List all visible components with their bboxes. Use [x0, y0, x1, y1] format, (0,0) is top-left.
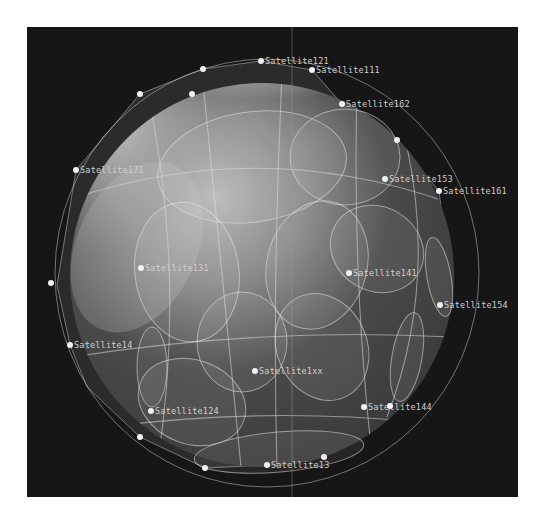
- satellite-label: Satellite124: [155, 406, 219, 416]
- satellite-dot-icon[interactable]: [67, 342, 73, 348]
- satellite-marker[interactable]: Satellite154: [437, 300, 508, 310]
- satellite-label: Satellite141: [353, 268, 417, 278]
- satellite-label: Satellite13: [271, 460, 330, 470]
- satellite-marker[interactable]: Satellite13: [264, 460, 330, 470]
- satellite-dot-icon[interactable]: [321, 454, 327, 460]
- satellite-label: Satellite153: [389, 174, 453, 184]
- satellite-dot-icon[interactable]: [309, 67, 315, 73]
- satellite-marker[interactable]: Satellite153: [382, 174, 453, 184]
- satellite-marker[interactable]: [321, 454, 327, 460]
- satellite-label: Satellite14: [74, 340, 133, 350]
- satellite-dot-icon[interactable]: [264, 462, 270, 468]
- satellite-marker[interactable]: [394, 137, 400, 143]
- satellite-marker[interactable]: [387, 403, 393, 409]
- satellite-marker[interactable]: [48, 280, 54, 286]
- satellite-label: Satellite131: [145, 263, 209, 273]
- satellite-label: Satellite111: [316, 65, 380, 75]
- satellite-marker[interactable]: [200, 66, 206, 72]
- coverage-footprint: [290, 109, 400, 205]
- satellite-dot-icon[interactable]: [387, 403, 393, 409]
- satellite-dot-icon[interactable]: [202, 465, 208, 471]
- satellite-marker[interactable]: [137, 434, 143, 440]
- satellite-dot-icon[interactable]: [138, 265, 144, 271]
- satellite-dot-icon[interactable]: [361, 404, 367, 410]
- satellite-dot-icon[interactable]: [200, 66, 206, 72]
- satellite-label: Satellite162: [346, 99, 410, 109]
- satellite-label: Satellite1xx: [259, 366, 323, 376]
- satellite-marker[interactable]: Satellite111: [309, 65, 380, 75]
- satellite-marker[interactable]: Satellite161: [436, 186, 507, 196]
- satellite-marker[interactable]: Satellite131: [138, 263, 209, 273]
- satellite-marker[interactable]: Satellite141: [346, 268, 417, 278]
- satellite-label: Satellite154: [444, 300, 508, 310]
- satellite-marker[interactable]: Satellite124: [148, 406, 219, 416]
- satellite-dot-icon[interactable]: [48, 280, 54, 286]
- satellite-dot-icon[interactable]: [382, 176, 388, 182]
- satellite-dot-icon[interactable]: [137, 91, 143, 97]
- satellite-marker[interactable]: [137, 91, 143, 97]
- satellite-dot-icon[interactable]: [189, 91, 195, 97]
- satellite-marker[interactable]: Satellite144: [361, 402, 432, 412]
- satellite-dot-icon[interactable]: [73, 167, 79, 173]
- satellite-dot-icon[interactable]: [252, 368, 258, 374]
- globe-scene[interactable]: Satellite121Satellite111Satellite162Sate…: [27, 27, 518, 497]
- satellite-dot-icon[interactable]: [437, 302, 443, 308]
- satellite-dot-icon[interactable]: [137, 434, 143, 440]
- satellite-marker[interactable]: [202, 465, 208, 471]
- satellite-dot-icon[interactable]: [258, 58, 264, 64]
- satellite-dot-icon[interactable]: [339, 101, 345, 107]
- satellite-label: Satellite161: [443, 186, 507, 196]
- satellite-marker[interactable]: Satellite162: [339, 99, 410, 109]
- satellite-globe-viewport[interactable]: Satellite121Satellite111Satellite162Sate…: [27, 27, 518, 497]
- satellite-label: Satellite144: [368, 402, 432, 412]
- satellite-dot-icon[interactable]: [346, 270, 352, 276]
- satellite-dot-icon[interactable]: [394, 137, 400, 143]
- satellite-dot-icon[interactable]: [436, 188, 442, 194]
- satellite-dot-icon[interactable]: [148, 408, 154, 414]
- satellite-marker[interactable]: Satellite14: [67, 340, 133, 350]
- satellite-marker[interactable]: Satellite171: [73, 165, 144, 175]
- satellite-label: Satellite171: [80, 165, 144, 175]
- satellite-marker[interactable]: [189, 91, 195, 97]
- coverage-footprint: [137, 327, 167, 407]
- satellite-marker[interactable]: Satellite1xx: [252, 366, 323, 376]
